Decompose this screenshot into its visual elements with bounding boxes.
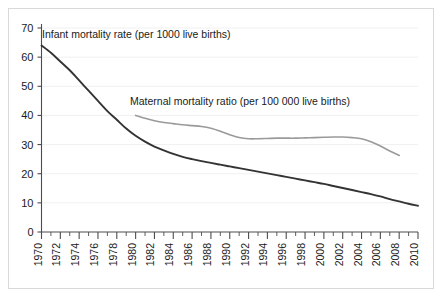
- x-tick-label: 1986: [182, 243, 194, 267]
- y-tick-label: 30: [21, 139, 33, 151]
- y-tick-label: 10: [21, 197, 33, 209]
- x-tick-label: 1994: [257, 243, 269, 267]
- x-tick-label: 1982: [144, 243, 156, 267]
- line-chart-plot: 0102030405060701970197219741976197819801…: [0, 0, 442, 297]
- x-tick-label: 1992: [239, 243, 251, 267]
- y-tick-label: 40: [21, 109, 33, 121]
- x-tick-label: 1996: [276, 243, 288, 267]
- x-tick-label: 2004: [352, 243, 364, 267]
- x-tick-label: 2008: [389, 243, 401, 267]
- chart-figure: 0102030405060701970197219741976197819801…: [0, 0, 442, 297]
- y-tick-label: 70: [21, 22, 33, 34]
- x-tick-label: 2010: [408, 243, 420, 267]
- x-tick-label: 1976: [88, 243, 100, 267]
- x-tick-label: 2002: [333, 243, 345, 267]
- x-tick-label: 2000: [314, 243, 326, 267]
- annotation-maternal-mortality: Maternal mortality ratio (per 100 000 li…: [130, 95, 350, 107]
- y-tick-label: 0: [27, 226, 33, 238]
- x-tick-label: 1978: [107, 243, 119, 267]
- series-line-infant-mortality: [42, 45, 419, 205]
- x-tick-label: 1984: [163, 243, 175, 267]
- x-tick-label: 1980: [126, 243, 138, 267]
- x-tick-label: 1974: [69, 243, 81, 267]
- x-tick-label: 1970: [32, 243, 44, 267]
- series-line-maternal-mortality: [136, 115, 400, 155]
- x-tick-label: 2006: [370, 243, 382, 267]
- y-tick-label: 60: [21, 51, 33, 63]
- y-tick-label: 50: [21, 80, 33, 92]
- x-tick-label: 1988: [201, 243, 213, 267]
- annotation-infant-mortality: Infant mortality rate (per 1000 live bir…: [42, 28, 231, 40]
- x-tick-label: 1990: [220, 243, 232, 267]
- x-tick-label: 1998: [295, 243, 307, 267]
- y-tick-label: 20: [21, 168, 33, 180]
- x-tick-label: 1972: [50, 243, 62, 267]
